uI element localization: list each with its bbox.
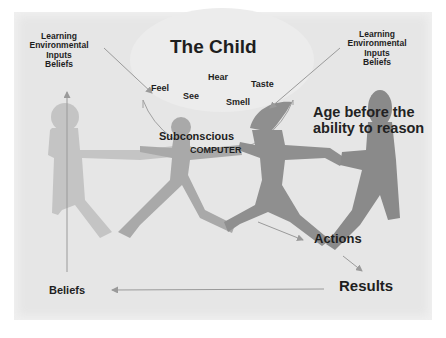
results-label: Results [339, 278, 393, 295]
actions-label: Actions [314, 232, 362, 246]
sense-feel: Feel [151, 84, 169, 94]
arrow-to-results [343, 256, 362, 271]
sense-hear: Hear [208, 73, 228, 83]
subconscious-label: Subconscious [159, 130, 234, 142]
child-dome [130, 8, 314, 112]
computer-label: Computer [190, 146, 242, 156]
diagram-canvas: Learning Environmental Inputs Beliefs Le… [0, 0, 446, 338]
sense-see: See [183, 92, 199, 102]
arrow-to-beliefs [112, 289, 324, 290]
diagram-title: The Child [170, 37, 257, 58]
right-inputs-label: Learning Environmental Inputs Beliefs [342, 30, 412, 67]
sense-taste: Taste [251, 80, 274, 90]
age-label: Age before the ability to reason [313, 105, 424, 137]
beliefs-label: Beliefs [49, 284, 85, 296]
sense-smell: Smell [226, 98, 250, 108]
left-inputs-label: Learning Environmental Inputs Beliefs [24, 32, 94, 69]
figure-left [48, 103, 182, 238]
